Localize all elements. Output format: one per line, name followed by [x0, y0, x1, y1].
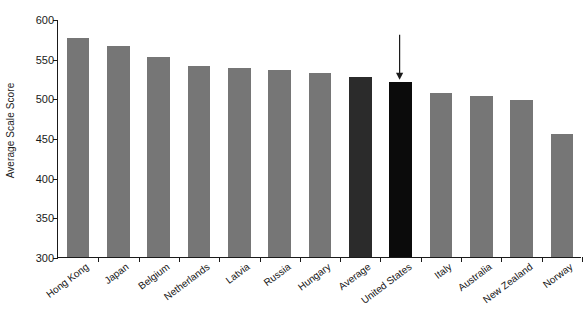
bar	[107, 46, 130, 257]
bar	[510, 100, 533, 257]
x-axis-category-label: Latvia	[224, 261, 252, 286]
y-axis-tick-labels: 300350400450500550600	[20, 0, 54, 280]
x-axis-category-label: Italy	[432, 261, 453, 281]
x-axis-category-label: Average	[337, 261, 373, 292]
y-axis-tick-mark	[53, 60, 58, 61]
x-axis-category-labels: Hong KongJapanBelgiumNetherlandsLatviaRu…	[57, 259, 581, 317]
plot-area	[57, 20, 581, 258]
bar	[551, 134, 574, 257]
y-axis-tick-label: 450	[20, 133, 54, 145]
x-axis-category-label: Hungary	[296, 261, 333, 293]
x-axis-tick-mark	[582, 257, 583, 262]
y-axis-tick-mark	[53, 99, 58, 100]
bar	[147, 57, 170, 257]
x-axis-category-label: Belgium	[136, 261, 171, 292]
bar	[389, 82, 412, 257]
y-axis-tick-mark	[53, 218, 58, 219]
bar	[349, 77, 372, 257]
y-axis-tick-label: 550	[20, 54, 54, 66]
x-axis-category-label: Australia	[456, 261, 494, 293]
bar	[228, 68, 251, 257]
y-axis-tick-mark	[53, 20, 58, 21]
y-axis-tick-mark	[53, 179, 58, 180]
y-axis-tick-label: 600	[20, 14, 54, 26]
x-axis-category-label: Norway	[541, 261, 575, 290]
y-axis-tick-mark	[53, 139, 58, 140]
bar	[188, 66, 211, 257]
bar	[470, 96, 493, 257]
y-axis-title-text: Average Scale Score	[6, 82, 17, 178]
y-axis-tick-label: 400	[20, 173, 54, 185]
bar	[309, 73, 332, 257]
x-axis-category-label: Russia	[261, 261, 292, 288]
chart-figure: Average Scale Score 30035040045050055060…	[0, 0, 586, 317]
x-axis-category-label: Japan	[103, 261, 131, 286]
y-axis-tick-label: 300	[20, 252, 54, 264]
y-axis-title: Average Scale Score	[2, 0, 20, 260]
bar	[67, 38, 90, 257]
bar	[430, 93, 453, 257]
y-axis-tick-label: 350	[20, 212, 54, 224]
y-axis-tick-label: 500	[20, 93, 54, 105]
bar	[268, 70, 291, 257]
